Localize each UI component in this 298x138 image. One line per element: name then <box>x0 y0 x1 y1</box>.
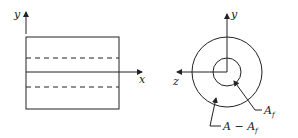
af-label: Af <box>263 104 276 119</box>
x-axis-label: x <box>139 73 146 86</box>
a-minus-af-label: A − Af <box>222 120 259 135</box>
y-axis-label-left: y <box>13 8 21 21</box>
diagram-canvas: y x y z Af A − Af <box>0 0 298 138</box>
left-longitudinal-view: y x <box>13 8 146 109</box>
a-minus-af-leader-arrow <box>210 98 221 126</box>
right-cross-section-view: y z Af A − Af <box>172 8 276 135</box>
bar-outline <box>26 37 119 109</box>
y-axis-label-right: y <box>230 8 238 21</box>
z-axis-label: z <box>172 75 179 88</box>
